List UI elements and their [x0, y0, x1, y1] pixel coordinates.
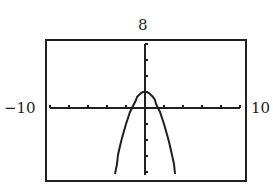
calculator-graph-screen: [0, 0, 273, 187]
